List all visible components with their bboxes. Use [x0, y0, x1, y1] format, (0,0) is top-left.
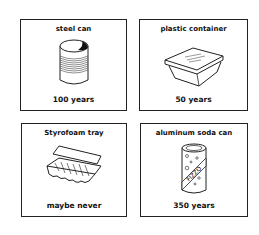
steel-can-icon	[54, 36, 94, 88]
card-caption: 350 years	[141, 201, 247, 210]
card-styrofoam-tray: Styrofoam tray maybe never	[21, 123, 127, 217]
card-caption: maybe never	[22, 201, 126, 210]
card-caption: 100 years	[21, 95, 126, 104]
card-aluminum-soda-can: aluminum soda can FIZZO 350 years	[140, 123, 248, 217]
card-caption: 50 years	[140, 95, 247, 104]
egg-carton-icon	[43, 144, 105, 184]
soda-can-icon: FIZZO	[177, 140, 211, 196]
card-steel-can: steel can 100 years	[20, 19, 127, 111]
card-plastic-container: plastic container 50 years	[139, 19, 248, 111]
card-title: aluminum soda can	[141, 129, 247, 137]
card-title: Styrofoam tray	[22, 129, 126, 137]
card-title: steel can	[21, 25, 126, 33]
plastic-container-icon	[161, 42, 227, 88]
card-title: plastic container	[140, 25, 247, 33]
